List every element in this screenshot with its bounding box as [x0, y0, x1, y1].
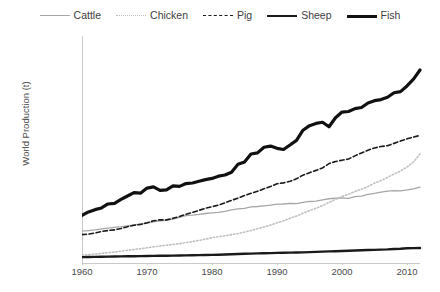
x-axis-ticks: 196019701980199020002010 [0, 266, 440, 282]
legend-label-pig: Pig [237, 10, 252, 20]
x-tick-label: 1980 [189, 266, 235, 277]
x-tick-label: 1990 [254, 266, 300, 277]
line-chart: Cattle Chicken Pig Sheep Fish World Prod… [0, 0, 440, 292]
legend-label-fish: Fish [381, 10, 401, 20]
y-axis-ticks: 020,000,00040,000,00060,000,00080,000,00… [0, 0, 78, 292]
legend-item-fish[interactable]: Fish [347, 10, 401, 20]
legend-label-chicken: Chicken [150, 10, 188, 20]
series-canvas [82, 36, 422, 265]
legend-item-chicken[interactable]: Chicken [116, 10, 188, 20]
line-swatch-icon [347, 10, 377, 20]
legend-item-sheep[interactable]: Sheep [267, 10, 331, 20]
plot-area [82, 36, 420, 263]
line-swatch-icon [267, 10, 297, 20]
legend-label-sheep: Sheep [301, 10, 331, 20]
x-tick-label: 1960 [59, 266, 105, 277]
x-tick-label: 2000 [319, 266, 365, 277]
series-line-chicken [82, 154, 420, 255]
series-line-pig [82, 135, 420, 234]
x-tick-label: 1970 [124, 266, 170, 277]
x-tick-label: 2010 [384, 266, 430, 277]
line-swatch-icon [203, 10, 233, 20]
line-swatch-icon [116, 10, 146, 20]
legend-item-pig[interactable]: Pig [203, 10, 252, 20]
